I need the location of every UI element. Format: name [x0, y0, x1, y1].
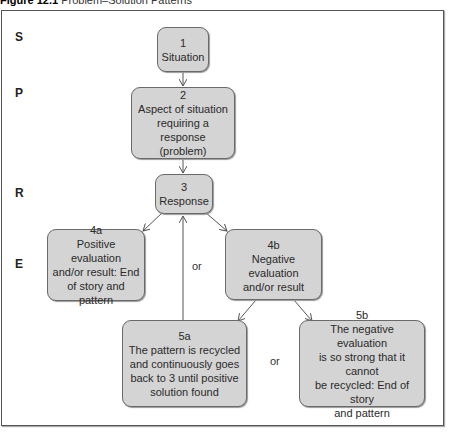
figure-caption: Figure 12.1 Problem–Solution Patterns — [0, 0, 192, 6]
figure-number: Figure 12.1 — [0, 0, 58, 6]
box-positive-evaluation: 4a Positive evaluation and/or result: En… — [47, 229, 145, 301]
stage-label-situation: S — [15, 30, 23, 44]
box-text: and pattern — [334, 406, 390, 420]
box-number: 1 — [180, 36, 186, 50]
box-text: is so strong that it cannot — [304, 350, 420, 378]
box-number: 5a — [178, 329, 190, 343]
box-text: and continuously goes — [130, 357, 239, 371]
box-text: Aspect of situation — [138, 102, 228, 116]
or-label-5: or — [270, 355, 280, 367]
box-text: Situation — [162, 50, 205, 64]
box-end-of-story: 5b The negative evaluation is so strong … — [299, 320, 425, 407]
box-response: 3 Response — [155, 174, 213, 214]
box-pattern-recycled: 5a The pattern is recycled and continuou… — [122, 320, 247, 407]
box-problem: 2 Aspect of situation requiring a respon… — [131, 87, 235, 159]
box-text: Response — [159, 194, 209, 208]
box-text: requiring a response — [136, 116, 230, 144]
box-number: 4a — [90, 223, 102, 237]
box-text: and/or result: End — [53, 265, 140, 279]
box-number: 4b — [267, 238, 279, 252]
box-text: The negative evaluation — [304, 322, 420, 350]
box-situation: 1 Situation — [157, 27, 209, 72]
box-text: Negative evaluation — [230, 252, 317, 280]
box-number: 3 — [181, 180, 187, 194]
box-text: back to 3 until positive — [130, 371, 238, 385]
stage-label-problem: P — [15, 86, 23, 100]
box-text: (problem) — [159, 144, 206, 158]
box-text: and/or result — [243, 280, 304, 294]
or-label-4: or — [192, 260, 202, 272]
stage-label-response: R — [15, 186, 24, 200]
box-negative-evaluation: 4b Negative evaluation and/or result — [225, 229, 322, 300]
box-number: 2 — [180, 88, 186, 102]
box-text: solution found — [150, 385, 219, 399]
box-text: be recycled: End of story — [304, 378, 420, 406]
box-text: The pattern is recycled — [129, 343, 240, 357]
box-number: 5b — [356, 308, 368, 322]
figure-title: Problem–Solution Patterns — [61, 0, 192, 6]
box-text: Positive evaluation — [52, 237, 140, 265]
box-text: of story and pattern — [52, 279, 140, 307]
stage-label-evaluation: E — [15, 257, 23, 271]
